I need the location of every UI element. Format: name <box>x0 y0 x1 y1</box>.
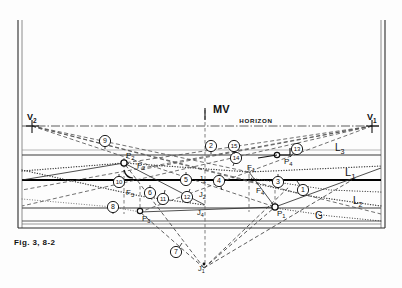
callout-number-14: 14 <box>233 155 240 161</box>
foot-point-label-F3: F3 <box>126 188 134 198</box>
callout-10[interactable]: 10 <box>113 174 124 188</box>
measuring-point-label: MV <box>213 103 230 115</box>
callout-7[interactable]: 7 <box>170 243 182 258</box>
callout-11[interactable]: 11 <box>157 190 168 205</box>
node-P3 <box>137 208 142 213</box>
figure-caption: Fig. 3, 8-2 <box>14 238 55 247</box>
ray-j1-right2 <box>204 186 290 268</box>
node-F3-hook <box>124 170 133 178</box>
foot-point-label-F4: F4 <box>256 186 265 196</box>
callout-number-4: 4 <box>217 177 221 184</box>
callout-2[interactable]: 2 <box>205 140 216 154</box>
perspective-diagram: V2V1MVP1P2P3P4F1F2F3F4J1J2J3J4L3L1L2GHOR… <box>0 0 402 288</box>
ray-j1-left <box>124 163 204 268</box>
node-P4-hook <box>280 148 290 155</box>
callout-3[interactable]: 3 <box>272 174 283 188</box>
node-P2 <box>121 160 127 166</box>
callout-number-13: 13 <box>294 146 301 152</box>
callout-12[interactable]: 12 <box>181 189 192 203</box>
callout-4[interactable]: 4 <box>213 175 224 190</box>
callout-number-5: 5 <box>184 176 188 183</box>
callout-8[interactable]: 8 <box>107 201 118 214</box>
node-J1 <box>203 263 206 266</box>
tick-marks <box>26 108 379 133</box>
ray-v1-d <box>22 126 372 206</box>
callout-number-15: 15 <box>231 143 238 149</box>
solid-rays <box>22 163 381 212</box>
line-label-G: G <box>315 210 323 221</box>
callout-5[interactable]: 5 <box>180 172 191 186</box>
foot-point-label-F1: F1 <box>247 163 255 173</box>
ray-v1-c <box>140 126 372 212</box>
callout-9[interactable]: 9 <box>99 135 110 149</box>
station-point-label-P4: P4 <box>284 157 293 167</box>
joint-point-label-J3: J3 <box>199 174 206 184</box>
solid-ray-p2-a <box>22 163 124 180</box>
ray-j1-right <box>204 207 275 268</box>
line-label-L1: L1 <box>345 166 356 181</box>
callout-number-12: 12 <box>184 194 191 200</box>
line-label-L2: L2 <box>353 195 363 209</box>
foot-point-label-F2: F2 <box>137 161 145 171</box>
callout-number-11: 11 <box>160 196 167 202</box>
callout-number-1: 1 <box>301 186 305 193</box>
station-point-label-P2: P2 <box>126 151 135 161</box>
joint-point-label-J2: J2 <box>199 190 206 200</box>
station-point-label-P3: P3 <box>142 214 151 224</box>
callout-number-8: 8 <box>111 203 115 210</box>
callout-15[interactable]: 15 <box>228 140 239 154</box>
construction-lines <box>22 150 381 221</box>
line-label-L3: L3 <box>335 142 345 156</box>
vanishing-rays <box>22 126 381 214</box>
vanishing-point-label-V1: V1 <box>367 112 377 124</box>
callout-number-10: 10 <box>116 179 123 185</box>
callout-number-3: 3 <box>276 178 280 185</box>
vanishing-point-label-V2: V2 <box>27 112 37 124</box>
callout-6[interactable]: 6 <box>144 185 155 199</box>
joint-point-label-J1: J1 <box>198 264 205 274</box>
dot-band-p3-left <box>22 199 140 212</box>
callout-1[interactable]: 1 <box>297 181 309 196</box>
solid-ray-p1-a <box>275 168 381 207</box>
station-point-label-P1: P1 <box>277 209 286 219</box>
callout-number-2: 2 <box>209 142 213 149</box>
figure-canvas: V2V1MVP1P2P3P4F1F2F3F4J1J2J3J4L3L1L2GHOR… <box>0 0 402 288</box>
callout-number-9: 9 <box>103 137 107 144</box>
callout-14[interactable]: 14 <box>230 152 241 166</box>
callout-number-7: 7 <box>174 248 178 255</box>
callout-number-6: 6 <box>148 189 152 196</box>
horizon-label: HORIZON <box>239 117 272 124</box>
